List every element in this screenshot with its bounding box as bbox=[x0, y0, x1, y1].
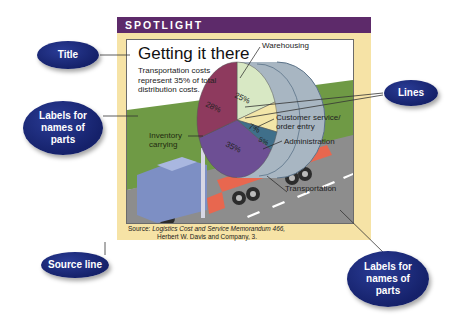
callout-lines: Lines bbox=[384, 80, 438, 106]
callout-source-line: Source line bbox=[41, 252, 109, 278]
callout-labels-right: Labels for names of parts bbox=[347, 251, 429, 307]
callout-title: Title bbox=[37, 41, 99, 69]
callout-labels-left: Labels for names of parts bbox=[23, 101, 103, 155]
